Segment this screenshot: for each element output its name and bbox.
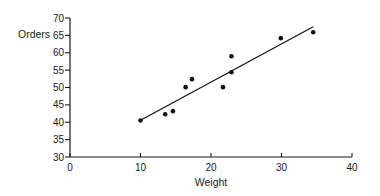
y-tick-label: 35 — [53, 134, 65, 145]
data-point — [278, 36, 283, 41]
x-tick-label: 20 — [205, 162, 217, 173]
regression-line — [141, 27, 314, 120]
y-tick-label: 50 — [53, 82, 65, 93]
x-axis: 010203040 — [67, 153, 358, 173]
data-point — [171, 109, 176, 114]
y-tick-label: 60 — [53, 47, 65, 58]
data-point — [229, 70, 234, 75]
data-point — [311, 30, 316, 35]
x-tick-label: 0 — [67, 162, 73, 173]
x-tick-label: 10 — [135, 162, 147, 173]
scatter-chart: 303540455055606570 010203040 Orders Weig… — [0, 0, 380, 196]
y-tick-label: 65 — [53, 30, 65, 41]
data-point — [190, 77, 195, 82]
data-point — [229, 54, 234, 59]
data-point — [183, 85, 188, 90]
y-tick-label: 30 — [53, 152, 65, 163]
data-point — [163, 112, 168, 117]
x-tick-label: 40 — [346, 162, 358, 173]
y-tick-label: 40 — [53, 117, 65, 128]
data-points — [138, 30, 315, 123]
y-axis-label: Orders — [18, 28, 50, 40]
y-tick-label: 70 — [53, 13, 65, 24]
x-axis-label: Weight — [195, 176, 228, 188]
y-tick-label: 45 — [53, 99, 65, 110]
data-point — [221, 85, 226, 90]
x-tick-label: 30 — [276, 162, 288, 173]
y-axis: 303540455055606570 — [53, 13, 70, 163]
data-point — [138, 118, 143, 123]
y-tick-label: 55 — [53, 65, 65, 76]
